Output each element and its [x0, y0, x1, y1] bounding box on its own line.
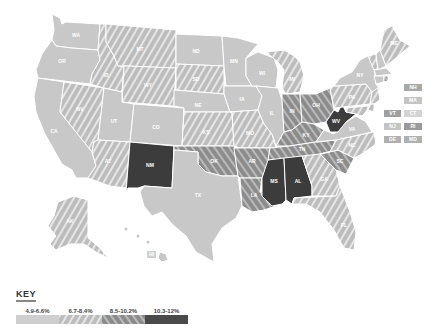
label-ND: ND [192, 48, 200, 54]
label-KS: KS [203, 129, 211, 135]
state-MA[interactable] [374, 68, 392, 76]
state-RI[interactable] [384, 76, 388, 82]
label-KY: KY [303, 132, 311, 138]
label-WY: WY [144, 82, 153, 88]
state-SD[interactable] [176, 64, 224, 94]
key-item-4: 10.3-12% [145, 307, 188, 324]
state-ND[interactable] [176, 34, 224, 66]
label-TX: TX [195, 192, 202, 198]
key-swatch-solid-light [16, 315, 59, 324]
label-NM: NM [146, 162, 154, 168]
small-state-legend: NH MA VT CT NJ RI DE MD [384, 84, 422, 143]
label-OR: OR [58, 58, 66, 64]
label-IN: IN [290, 108, 295, 114]
key-item-2: 6.7-8.4% [59, 307, 102, 324]
state-AK[interactable] [48, 196, 108, 258]
label-SC: SC [337, 158, 344, 164]
label-IA: IA [240, 96, 245, 102]
label-AL: AL [295, 178, 302, 184]
box-label-NH: NH [409, 84, 417, 90]
label-OK: OK [210, 158, 218, 164]
key-label: 4.9-6.6% [25, 307, 49, 315]
label-ID: ID [104, 72, 109, 78]
state-HI-islet [125, 228, 128, 231]
box-label-VT: VT [389, 110, 395, 116]
label-LA: LA [251, 192, 258, 198]
box-label-RI: RI [411, 123, 417, 129]
key-swatch-dark-stripe [102, 315, 145, 324]
label-NY: NY [357, 72, 365, 78]
key-swatch-dark-solid [145, 315, 188, 324]
label-NV: NV [77, 106, 85, 112]
label-NE: NE [195, 102, 203, 108]
label-WV: WV [332, 118, 341, 124]
label-TN: TN [299, 146, 306, 152]
label-GA: GA [320, 176, 328, 182]
box-label-DE: DE [389, 136, 397, 142]
key-item-3: 8.5-10.2% [102, 307, 145, 324]
key-swatch-light-stripe [59, 315, 102, 324]
label-HI: HI [149, 251, 155, 257]
label-WI: WI [259, 70, 266, 76]
label-MS: MS [270, 178, 278, 184]
label-NC: NC [348, 142, 356, 148]
key-label: 8.5-10.2% [110, 307, 137, 315]
map-key: KEY 4.9-6.6% 6.7-8.4% 8.5-10.2% 10.3-12% [16, 283, 188, 324]
label-ME: ME [390, 40, 398, 46]
label-AR: AR [248, 158, 256, 164]
box-label-NJ: NJ [389, 123, 396, 129]
box-label-CT: CT [410, 110, 417, 116]
label-SD: SD [193, 76, 200, 82]
key-title: KEY [16, 290, 36, 302]
state-HI[interactable] [158, 252, 168, 262]
state-CT[interactable] [374, 76, 384, 84]
label-CA: CA [50, 128, 58, 134]
state-DE[interactable] [368, 104, 374, 112]
label-AZ: AZ [105, 158, 112, 164]
label-CO: CO [152, 124, 160, 130]
key-item-1: 4.9-6.6% [16, 307, 59, 324]
label-WA: WA [72, 32, 80, 38]
label-MN: MN [230, 58, 238, 64]
key-label: 6.7-8.4% [68, 307, 92, 315]
label-MT: MT [136, 46, 143, 52]
label-IL: IL [270, 110, 274, 116]
box-label-MA: MA [409, 97, 417, 103]
label-AK: AK [66, 218, 74, 224]
state-HI-islet [147, 241, 150, 244]
label-PA: PA [349, 94, 356, 100]
label-MO: MO [246, 130, 254, 136]
label-MI: MI [289, 76, 295, 82]
label-OH: OH [312, 102, 320, 108]
box-label-MD: MD [409, 136, 417, 142]
key-label: 10.3-12% [154, 307, 180, 315]
label-VA: VA [349, 126, 356, 132]
label-FL: FL [341, 222, 347, 228]
label-UT: UT [111, 118, 118, 124]
state-HI-islet [137, 235, 140, 238]
key-row: 4.9-6.6% 6.7-8.4% 8.5-10.2% 10.3-12% [16, 307, 188, 324]
